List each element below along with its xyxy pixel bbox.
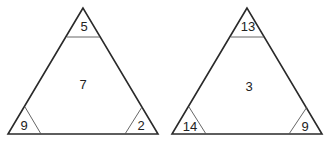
triangle-2-center-number: 3 xyxy=(245,79,252,94)
triangle-2-bottom-left-number: 14 xyxy=(183,119,197,134)
triangle-1-bottom-left-number: 9 xyxy=(20,118,27,133)
triangle-2-bottom-right-number: 9 xyxy=(301,119,308,134)
triangle-puzzle-diagram: 5 7 9 2 13 3 14 9 xyxy=(0,0,329,148)
triangle-1: 5 7 9 2 xyxy=(8,8,158,134)
triangle-1-top-number: 5 xyxy=(80,19,87,34)
triangle-1-bottom-right-number: 2 xyxy=(137,118,144,133)
triangle-2: 13 3 14 9 xyxy=(172,8,322,134)
triangle-1-center-number: 7 xyxy=(79,77,86,92)
triangle-2-top-number: 13 xyxy=(241,19,255,34)
